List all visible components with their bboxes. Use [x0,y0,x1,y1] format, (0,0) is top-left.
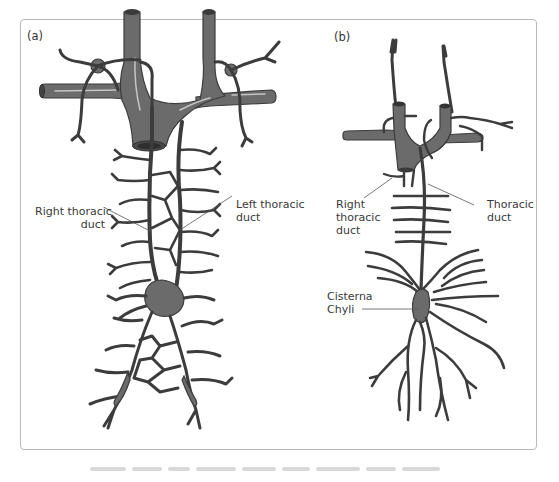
panel-a-thoracic-ducts [90,108,232,428]
panel-a-label: (a) [27,29,43,43]
label-right-thoracic-duct-b: Right thoracic duct [336,198,380,237]
label-right-thoracic-duct-a: Right thoracic duct [35,205,107,231]
panel-a-veins [40,9,280,151]
panel-b-thoracic-duct [366,148,504,420]
panel-b-veins [343,40,512,173]
label-thoracic-duct-b: Thoracic duct [487,198,534,224]
panel-b-label: (b) [334,30,350,44]
lymphatic-diagram: .v { fill: none; stroke: #3c3c3c; stroke… [0,0,559,482]
label-cisterna-chyli: Cisterna Chyli [327,290,373,316]
label-left-thoracic-duct-a: Left thoracic duct [236,198,305,224]
figure-caption-blurred [90,464,470,474]
